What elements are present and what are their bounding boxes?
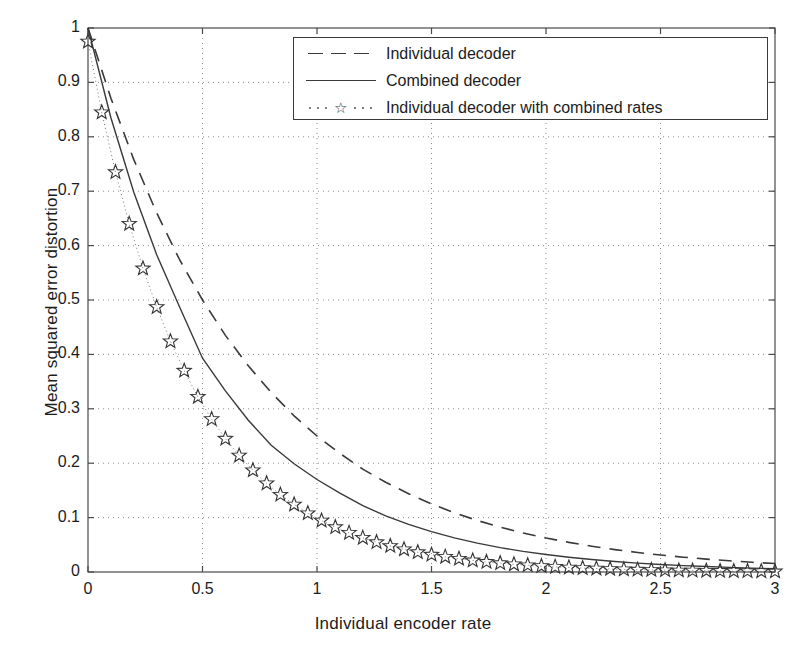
- legend-label-1: Combined decoder: [386, 72, 521, 90]
- y-tick-label: 0.9: [22, 72, 80, 90]
- legend-swatch-solid: [304, 67, 378, 94]
- star-marker: [589, 561, 603, 575]
- star-marker: [452, 551, 466, 565]
- chart-legend: Individual decoder Combined decoder ☆ In…: [293, 37, 768, 120]
- legend-item-individual-decoder: Individual decoder: [294, 40, 767, 67]
- legend-item-individual-combined-rates: ☆ Individual decoder with combined rates: [294, 94, 767, 121]
- star-marker: [630, 562, 644, 576]
- legend-swatch-dashed: [304, 40, 378, 67]
- star-marker: [163, 334, 177, 348]
- legend-item-combined-decoder: Combined decoder: [294, 67, 767, 94]
- y-tick-label: 0.4: [22, 344, 80, 362]
- star-marker: [466, 553, 480, 567]
- x-tick-label: 0.5: [173, 580, 233, 598]
- legend-label-2: Individual decoder with combined rates: [386, 99, 663, 117]
- star-marker: [301, 506, 315, 520]
- star-marker: [713, 563, 727, 577]
- y-tick-label: 0.8: [22, 127, 80, 145]
- star-marker: [259, 476, 273, 490]
- star-marker: [205, 412, 219, 426]
- x-tick-label: 3: [745, 580, 805, 598]
- star-marker: [150, 300, 164, 314]
- star-marker: [617, 562, 631, 576]
- y-tick-label: 0.1: [22, 508, 80, 526]
- star-marker: [507, 557, 521, 571]
- star-marker: [699, 563, 713, 577]
- star-marker: [438, 549, 452, 563]
- y-tick-label: 0.2: [22, 453, 80, 471]
- star-marker: [521, 558, 535, 572]
- star-marker: [411, 545, 425, 559]
- legend-swatch-dotted-star: ☆: [304, 94, 378, 121]
- star-marker: [727, 564, 741, 578]
- x-tick-label: 1.5: [402, 580, 462, 598]
- figure-container: Mean squared error distortion Individual…: [0, 0, 806, 658]
- y-tick-label: 0.3: [22, 399, 80, 417]
- y-tick-label: 0.7: [22, 181, 80, 199]
- star-marker: [287, 497, 301, 511]
- star-marker: [95, 105, 109, 119]
- x-tick-label: 2: [516, 580, 576, 598]
- x-tick-label: 0: [58, 580, 118, 598]
- star-marker: [356, 530, 370, 544]
- star-marker: [493, 556, 507, 570]
- y-tick-label: 0.5: [22, 290, 80, 308]
- star-marker: [383, 539, 397, 553]
- star-marker: [754, 564, 768, 578]
- star-marker: [122, 216, 136, 230]
- star-marker: [328, 520, 342, 534]
- y-tick-label: 0: [22, 562, 80, 580]
- x-axis-label: Individual encoder rate: [0, 614, 806, 634]
- y-tick-label: 1: [22, 18, 80, 36]
- star-marker: [740, 564, 754, 578]
- star-marker: [177, 363, 191, 377]
- star-marker: [342, 525, 356, 539]
- legend-label-0: Individual decoder: [386, 45, 516, 63]
- star-marker: [369, 535, 383, 549]
- star-marker: [218, 431, 232, 445]
- star-marker: [479, 554, 493, 568]
- x-tick-label: 2.5: [631, 580, 691, 598]
- star-marker: [603, 562, 617, 576]
- star-icon: ☆: [334, 100, 347, 115]
- star-marker: [314, 513, 328, 527]
- series-line-dotted: [88, 42, 775, 572]
- star-marker: [548, 559, 562, 573]
- star-marker: [397, 542, 411, 556]
- x-tick-label: 1: [287, 580, 347, 598]
- y-tick-label: 0.6: [22, 236, 80, 254]
